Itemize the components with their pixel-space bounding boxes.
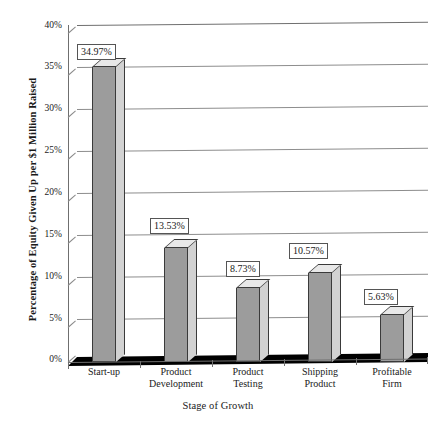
x-tick-label-line1: Profitable xyxy=(350,366,434,378)
y-tick-label-20: 20% xyxy=(28,188,62,198)
bar-side-face xyxy=(404,307,413,362)
bar-side-face xyxy=(332,265,341,362)
y-tick-label-15: 15% xyxy=(28,230,62,240)
bar-side-face xyxy=(188,240,197,362)
category-separator-4 xyxy=(356,358,357,365)
data-label-product-testing: 8.73% xyxy=(226,261,260,277)
y-tick-label-30: 30% xyxy=(28,104,62,114)
y-tick-label-0: 0% xyxy=(28,355,62,365)
x-tick-label-line2: Firm xyxy=(350,378,434,390)
chart-canvas: Percentage of Equity Given Up per $1 Mil… xyxy=(0,0,436,428)
bar-shipping-product[interactable] xyxy=(308,16,342,362)
bar-side-face xyxy=(260,280,269,362)
bar-profitable-firm[interactable] xyxy=(380,16,414,362)
category-separator-3 xyxy=(284,359,285,366)
bar-product-development[interactable] xyxy=(164,16,198,362)
data-label-start-up: 34.97% xyxy=(77,44,116,60)
data-label-product-development: 13.53% xyxy=(150,218,189,234)
y-tick-label-40: 40% xyxy=(28,21,62,31)
y-tick-label-25: 25% xyxy=(28,146,62,156)
y-tick-label-5: 5% xyxy=(28,314,62,324)
y-axis-title: Percentage of Equity Given Up per $1 Mil… xyxy=(27,50,38,350)
bar-side-face xyxy=(116,59,125,362)
category-separator-5 xyxy=(427,357,428,364)
data-label-shipping-product: 10.57% xyxy=(289,243,328,259)
x-tick-label-profitable-firm: Profitable Firm xyxy=(350,366,434,390)
x-axis-title: Stage of Growth xyxy=(0,400,436,411)
bar-front-face xyxy=(308,273,332,362)
bar-front-face xyxy=(236,288,260,362)
y-tick-label-10: 10% xyxy=(28,272,62,282)
bar-front-face xyxy=(164,248,188,362)
bar-front-face xyxy=(380,315,404,362)
data-label-profitable-firm: 5.63% xyxy=(364,289,398,305)
bar-start-up[interactable] xyxy=(92,16,126,362)
y-tick-label-35: 35% xyxy=(28,62,62,72)
bar-front-face xyxy=(92,67,116,362)
bar-product-testing[interactable] xyxy=(236,16,270,362)
plot-area xyxy=(68,16,428,362)
